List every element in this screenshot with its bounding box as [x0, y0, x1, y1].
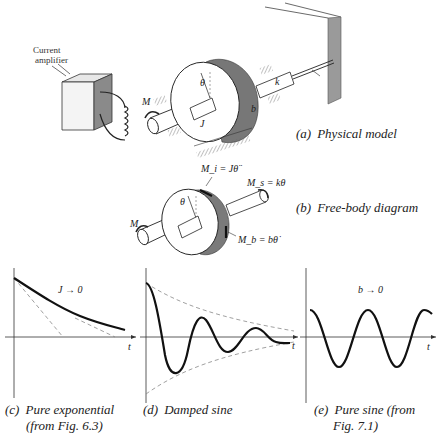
angle-symbol: θ	[200, 77, 205, 88]
inertial-moment-label: M_i = Jθ̈	[201, 163, 238, 174]
panel-b-caption-text: Free-body diagram	[317, 200, 418, 215]
figure-canvas	[0, 0, 438, 448]
panel-a-caption: (a)Physical model	[296, 126, 397, 142]
panel-c-caption-line1: Pure exponential	[25, 402, 114, 417]
panel-e-axis-t: t	[427, 341, 430, 352]
amplifier-label-line2: amplifier	[35, 55, 68, 65]
panel-e-annotation: b → 0	[358, 284, 383, 295]
panel-e-caption: (e)Pure sine (from	[314, 402, 415, 418]
current-amplifier-icon	[52, 64, 112, 130]
panel-c-axis-t: t	[128, 341, 131, 352]
panel-e-caption-line1: Pure sine (from	[334, 402, 415, 417]
chart-d-damped-sine	[140, 268, 298, 403]
panel-d-axis-t: t	[292, 340, 295, 351]
fbd-applied-moment-symbol: M	[130, 218, 138, 229]
panel-a-caption-text: Physical model	[317, 126, 397, 141]
panel-c-tag: (c)	[5, 402, 19, 417]
panel-c-caption-line2: (from Fig. 6.3)	[26, 418, 103, 434]
panel-b-free-body-diagram	[136, 177, 270, 260]
panel-c-caption: (c)Pure exponential	[5, 402, 114, 418]
damping-symbol: b	[251, 103, 256, 114]
fbd-angle-symbol: θ	[180, 196, 185, 207]
damping-moment-label: M_b = bθ̇	[238, 234, 278, 245]
panel-d-tag: (d)	[143, 402, 158, 417]
spring-symbol: k	[275, 76, 279, 87]
panel-d-caption-text: Damped sine	[164, 402, 232, 417]
applied-moment-symbol: M	[142, 96, 150, 107]
spring-moment-label: M_s = kθ	[247, 177, 285, 188]
amplifier-label-line1: Current	[33, 45, 61, 55]
panel-e-tag: (e)	[314, 402, 328, 417]
panel-b-caption: (b)Free-body diagram	[296, 200, 418, 216]
panel-d-caption: (d)Damped sine	[143, 402, 232, 418]
inertia-symbol: J	[200, 118, 204, 129]
panel-b-tag: (b)	[296, 200, 311, 215]
panel-a-tag: (a)	[296, 126, 311, 141]
panel-e-caption-line2: Fig. 7.1)	[333, 418, 378, 434]
panel-c-annotation: J → 0	[58, 284, 82, 295]
torsion-spring-icon	[256, 56, 334, 104]
